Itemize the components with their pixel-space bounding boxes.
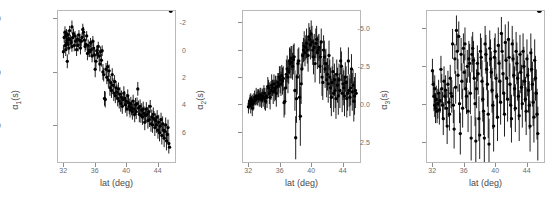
y-tick-mark [53, 72, 57, 73]
y-tick-mark [422, 142, 426, 143]
y-tick-label: 80 [0, 122, 1, 129]
plot-frame-alpha3 [426, 10, 545, 163]
data-points [62, 11, 173, 149]
y-tick-mark [53, 18, 57, 19]
y-tick-mark [53, 125, 57, 126]
x-tick-label: 40 [307, 167, 315, 174]
x-tick-label: 44 [339, 167, 347, 174]
x-tick-mark [527, 163, 528, 167]
plot-frame-alpha1 [57, 10, 176, 163]
y-tick-mark [238, 22, 242, 23]
y-axis-label-alpha1: α1(s) [10, 90, 22, 109]
y-axis-label-subscript: 2 [200, 100, 207, 104]
x-tick-mark [495, 163, 496, 167]
x-tick-label: 44 [154, 167, 162, 174]
y-tick-label: 0 [182, 46, 186, 53]
x-tick-label: 40 [491, 167, 499, 174]
y-tick-mark [422, 66, 426, 67]
x-tick-mark [158, 163, 159, 167]
error-bars [248, 11, 356, 159]
y-axis-label-alpha2: α2(s) [195, 90, 207, 109]
y-axis-label-subscript: 1 [15, 100, 22, 104]
x-tick-mark [63, 163, 64, 167]
y-axis-label-unit: (s) [10, 90, 20, 101]
y-tick-label: -5.0 [358, 25, 370, 32]
x-tick-mark [126, 163, 127, 167]
y-tick-mark [238, 132, 242, 133]
scatter-plot-alpha3 [427, 11, 544, 162]
x-tick-label: 36 [460, 167, 468, 174]
x-tick-mark [248, 163, 249, 167]
x-tick-label: 44 [523, 167, 531, 174]
x-tick-mark [95, 163, 96, 167]
scatter-plot-alpha1 [58, 11, 175, 162]
x-tick-label: 32 [428, 167, 436, 174]
panel-alpha1: α1(s) lat (deg) 100908032364044 [0, 0, 184, 199]
y-tick-label: 90 [0, 68, 1, 75]
y-tick-label: -2.5 [358, 63, 370, 70]
y-axis-label-symbol: α [195, 104, 205, 109]
error-bars [63, 11, 171, 154]
x-axis-label-alpha1: lat (deg) [57, 178, 176, 188]
plot-frame-alpha2 [242, 10, 361, 163]
y-tick-label: -2 [180, 19, 186, 26]
y-tick-label: 100 [0, 15, 1, 22]
error-bars [432, 11, 540, 162]
y-tick-label: 4 [182, 101, 186, 108]
y-tick-label: 2.5 [360, 138, 370, 145]
x-axis-label-alpha2: lat (deg) [242, 178, 361, 188]
y-tick-mark [238, 50, 242, 51]
x-tick-mark [432, 163, 433, 167]
scatter-plot-alpha2 [243, 11, 360, 162]
y-axis-label-symbol: α [379, 104, 389, 109]
panel-alpha2: α2(s) lat (deg) 6420-232364044 [185, 0, 369, 199]
x-tick-mark [343, 163, 344, 167]
y-tick-mark [238, 77, 242, 78]
y-tick-label: 0.0 [360, 100, 370, 107]
x-tick-mark [311, 163, 312, 167]
x-tick-mark [464, 163, 465, 167]
y-axis-label-subscript: 3 [384, 100, 391, 104]
x-tick-label: 36 [91, 167, 99, 174]
panel-alpha3: α3(s) lat (deg) 2.50.0-2.5-5.032364044 [369, 0, 553, 199]
y-tick-label: 6 [182, 128, 186, 135]
y-axis-label-unit: (s) [379, 90, 389, 101]
y-axis-label-unit: (s) [195, 90, 205, 101]
y-tick-label: 2 [182, 73, 186, 80]
y-tick-mark [238, 104, 242, 105]
y-tick-mark [422, 104, 426, 105]
x-tick-label: 32 [244, 167, 252, 174]
x-tick-label: 32 [59, 167, 67, 174]
y-axis-label-alpha3: α3(s) [379, 90, 391, 109]
figure-container: α1(s) lat (deg) 100908032364044 α2(s) la… [0, 0, 553, 199]
x-axis-label-alpha3: lat (deg) [426, 178, 545, 188]
y-axis-label-symbol: α [10, 104, 20, 109]
x-tick-label: 36 [276, 167, 284, 174]
y-tick-mark [422, 28, 426, 29]
x-tick-label: 40 [122, 167, 130, 174]
x-tick-mark [280, 163, 281, 167]
